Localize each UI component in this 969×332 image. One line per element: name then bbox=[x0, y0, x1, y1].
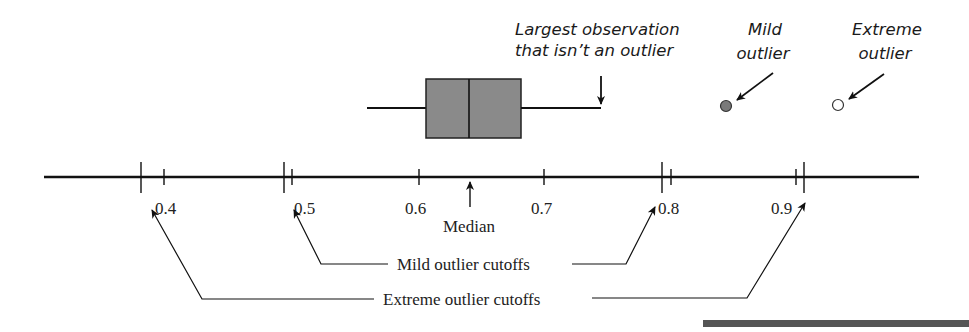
mild-cutoffs-label: Mild outlier cutoffs bbox=[397, 255, 530, 274]
largest-label-line1: Largest observation bbox=[515, 20, 680, 39]
box-plot bbox=[367, 79, 601, 138]
mild-outlier-label-line1: Mild bbox=[748, 20, 782, 39]
largest-observation-annotation: Largest observation that isn’t an outlie… bbox=[515, 20, 680, 104]
tick-label-0.8: 0.8 bbox=[658, 199, 679, 218]
extreme-cutoffs-label: Extreme outlier cutoffs bbox=[383, 290, 540, 309]
extreme-outlier-label-line2: outlier bbox=[858, 44, 912, 63]
extreme-outlier-point bbox=[833, 100, 844, 111]
arrow-icon bbox=[152, 210, 374, 299]
mild-outlier-label-line2: outlier bbox=[736, 44, 790, 63]
decorative-bar bbox=[703, 320, 969, 327]
boxplot-diagram: Largest observation that isn’t an outlie… bbox=[0, 0, 969, 332]
mild-outlier-point bbox=[721, 101, 732, 112]
arrow-icon bbox=[737, 73, 773, 100]
number-line-axis: 0.4 0.5 0.6 0.7 0.8 0.9 bbox=[44, 162, 919, 218]
tick-label-0.7: 0.7 bbox=[531, 199, 553, 218]
tick-label-0.6: 0.6 bbox=[405, 199, 426, 218]
tick-label-0.4: 0.4 bbox=[155, 199, 177, 218]
arrow-icon bbox=[294, 210, 388, 264]
arrow-icon bbox=[849, 74, 884, 99]
iqr-box bbox=[426, 79, 521, 138]
arrow-icon bbox=[572, 207, 655, 264]
mild-outlier: Mild outlier bbox=[721, 20, 791, 112]
extreme-outlier-label-line1: Extreme bbox=[852, 20, 922, 39]
extreme-outlier: Extreme outlier bbox=[833, 20, 922, 111]
median-label: Median bbox=[443, 217, 495, 236]
tick-label-0.9: 0.9 bbox=[771, 199, 792, 218]
largest-label-line2: that isn’t an outlier bbox=[515, 41, 675, 60]
median-annotation: Median bbox=[443, 182, 495, 236]
